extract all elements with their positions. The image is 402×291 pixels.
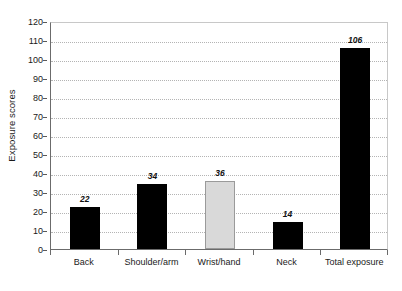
bars-layer: 22343614106 (51, 23, 387, 249)
y-axis-tick-label: 30 (33, 189, 43, 198)
x-axis-tick-mark (387, 250, 388, 255)
y-axis-tick-mark (43, 22, 47, 23)
bar-group: 22 (51, 23, 119, 249)
x-axis-tick-mark (185, 250, 186, 255)
y-axis-tick-mark (43, 60, 47, 61)
y-axis-tick-label: 100 (28, 56, 43, 65)
y-axis-tick-mark (43, 231, 47, 232)
x-axis-tick-mark (118, 250, 119, 255)
y-axis-tick-label: 60 (33, 132, 43, 141)
bar-value-label: 14 (283, 210, 292, 219)
y-axis-tick-mark (43, 41, 47, 42)
bar-value-label: 34 (148, 172, 157, 181)
y-axis-tick-mark (43, 136, 47, 137)
y-axis-tick-label: 120 (28, 18, 43, 27)
y-axis-tick-mark (43, 117, 47, 118)
y-axis-title: Exposure scores (2, 0, 20, 250)
x-axis-tick-mark (253, 250, 254, 255)
y-axis-tick-label: 50 (33, 151, 43, 160)
y-axis-tick-mark (43, 79, 47, 80)
bar-group: 14 (254, 23, 322, 249)
y-axis-tick-label: 90 (33, 75, 43, 84)
x-axis-tick-mark (320, 250, 321, 255)
x-axis-tick-label: Shoulder/arm (124, 257, 178, 268)
y-axis-tick-label: 10 (33, 227, 43, 236)
y-axis-tick-mark (43, 212, 47, 213)
x-axis-tick-mark (50, 250, 51, 255)
bar-group: 36 (186, 23, 254, 249)
x-axis-tick-label: Back (74, 257, 94, 268)
y-axis-tick-mark (43, 250, 47, 251)
bar[interactable] (70, 207, 100, 249)
x-axis-tick-label: Wrist/hand (198, 257, 241, 268)
y-axis-tick-labels: 0102030405060708090100110120 (20, 22, 47, 250)
bar-chart: Exposure scores 010203040506070809010011… (0, 0, 402, 291)
x-axis-tick-label: Total exposure (325, 257, 384, 268)
bar[interactable] (273, 222, 303, 249)
y-axis-tick-label: 20 (33, 208, 43, 217)
y-axis-title-text: Exposure scores (6, 89, 17, 161)
x-axis-tick-label: Neck (276, 257, 297, 268)
bar-value-label: 106 (348, 36, 362, 45)
y-axis-tick-mark (43, 193, 47, 194)
bar-group: 106 (321, 23, 389, 249)
x-axis-tick-labels: BackShoulder/armWrist/handNeckTotal expo… (50, 257, 388, 273)
y-axis-tick-label: 80 (33, 94, 43, 103)
bar-value-label: 36 (215, 169, 224, 178)
plot-area: 22343614106 (50, 22, 388, 250)
y-axis-tick-mark (43, 155, 47, 156)
bar[interactable] (205, 181, 235, 249)
bar-group: 34 (119, 23, 187, 249)
x-axis-ticks (50, 250, 388, 255)
y-axis-tick-label: 70 (33, 113, 43, 122)
bar-value-label: 22 (80, 195, 89, 204)
y-axis-tick-label: 40 (33, 170, 43, 179)
y-axis-tick-mark (43, 174, 47, 175)
y-axis-tick-label: 110 (29, 37, 43, 46)
y-axis-tick-mark (43, 98, 47, 99)
bar[interactable] (137, 184, 167, 249)
bar[interactable] (340, 48, 370, 249)
